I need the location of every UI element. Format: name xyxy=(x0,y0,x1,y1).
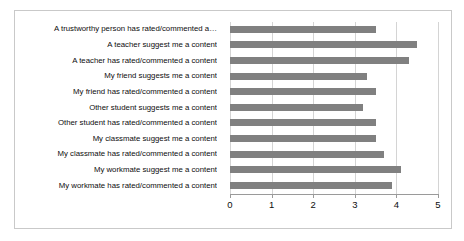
chart-frame: A trustworthy person has rated/commented… xyxy=(14,10,452,229)
x-tick-label: 3 xyxy=(343,199,367,210)
x-tick-label: 1 xyxy=(260,199,284,210)
bar-row xyxy=(230,116,438,132)
bar[interactable] xyxy=(230,119,376,126)
category-label: Other student suggests me a content xyxy=(17,104,217,112)
category-label: My classmate suggest me a content xyxy=(17,135,217,143)
category-label: My workmate suggest me a content xyxy=(17,166,217,174)
x-tick-mark xyxy=(272,194,273,198)
bar[interactable] xyxy=(230,73,367,80)
x-tick-mark xyxy=(230,194,231,198)
plot-area xyxy=(230,22,438,194)
bar-row xyxy=(230,100,438,116)
gridline xyxy=(438,22,439,194)
x-tick-mark xyxy=(396,194,397,198)
category-label: Other student has rated/commented a cont… xyxy=(17,119,217,127)
category-label: My friend suggests me a content xyxy=(17,72,217,80)
bar[interactable] xyxy=(230,104,363,111)
bar-row xyxy=(230,147,438,163)
x-tick-label: 5 xyxy=(426,199,450,210)
category-label: My classmate has rated/commented a conte… xyxy=(17,150,217,158)
bar-row xyxy=(230,131,438,147)
bar[interactable] xyxy=(230,57,409,64)
category-label: My workmate has rated/commented a conten… xyxy=(17,182,217,190)
category-label: A trustworthy person has rated/commented… xyxy=(17,25,217,33)
bar[interactable] xyxy=(230,151,384,158)
x-tick-label: 4 xyxy=(384,199,408,210)
bar-row xyxy=(230,53,438,69)
category-axis: A trustworthy person has rated/commented… xyxy=(17,22,217,194)
bar-row xyxy=(230,38,438,54)
bar[interactable] xyxy=(230,26,376,33)
bar-row xyxy=(230,22,438,38)
x-tick-label: 0 xyxy=(218,199,242,210)
bar[interactable] xyxy=(230,166,401,173)
category-label: A teacher suggest me a content xyxy=(17,41,217,49)
x-axis-line xyxy=(230,194,438,195)
bar[interactable] xyxy=(230,182,392,189)
bar[interactable] xyxy=(230,135,376,142)
category-label: A teacher has rated/commented a content xyxy=(17,57,217,65)
bar-row xyxy=(230,163,438,179)
x-tick-mark xyxy=(438,194,439,198)
x-tick-mark xyxy=(313,194,314,198)
bar-row xyxy=(230,69,438,85)
x-tick-mark xyxy=(355,194,356,198)
bar-row xyxy=(230,178,438,194)
bar[interactable] xyxy=(230,88,376,95)
category-label: My friend has rated/commented a content xyxy=(17,88,217,96)
x-tick-label: 2 xyxy=(301,199,325,210)
bar[interactable] xyxy=(230,41,417,48)
bar-row xyxy=(230,85,438,101)
chart-plot-wrapper: A trustworthy person has rated/commented… xyxy=(15,11,451,228)
